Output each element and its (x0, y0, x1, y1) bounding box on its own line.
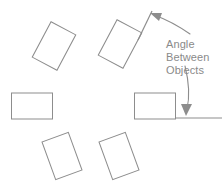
rectangle-bottom-right (99, 132, 139, 179)
callout-label: Angle Between Objects (166, 38, 210, 76)
rectangle-bottom-left (42, 132, 82, 179)
callout-line-3: Objects (166, 64, 204, 76)
arrowhead-horizontal-line-icon (181, 104, 192, 116)
rectangle-top-center (98, 20, 142, 68)
diagram-canvas: Angle Between Objects (0, 0, 222, 182)
rectangle-middle-left (12, 93, 53, 119)
tilted-reference-line (138, 11, 152, 40)
object-group (12, 20, 176, 180)
rectangle-middle-right (135, 93, 176, 119)
rectangle-top-left (32, 22, 76, 70)
angle-between-objects-diagram: Angle Between Objects (0, 0, 222, 182)
callout-line-2: Between (166, 51, 210, 63)
arrowhead-tilted-line-icon (150, 13, 162, 21)
callout-line-1: Angle (166, 38, 195, 50)
